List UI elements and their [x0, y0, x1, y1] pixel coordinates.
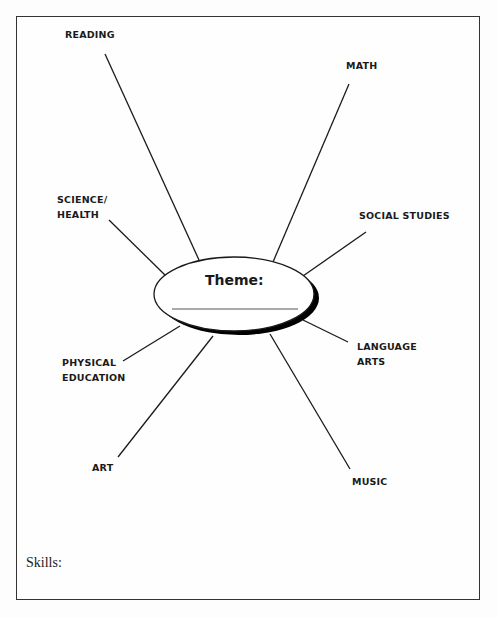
theme-ellipse — [154, 257, 314, 331]
spoke-science-health — [109, 220, 166, 276]
label-art: ART — [92, 460, 113, 475]
label-math: MATH — [346, 58, 377, 73]
label-reading: READING — [65, 27, 115, 42]
theme-label: Theme: — [205, 272, 264, 288]
spoke-social-studies — [303, 232, 366, 276]
spoke-language-arts — [303, 320, 348, 342]
label-physical-education: PHYSICALEDUCATION — [62, 355, 126, 385]
spoke-music — [270, 334, 350, 469]
label-science-health: SCIENCE/HEALTH — [57, 192, 107, 222]
spoke-art — [118, 336, 213, 457]
label-social-studies: SOCIAL STUDIES — [359, 208, 450, 223]
spoke-physical-education — [123, 326, 180, 361]
label-music: MUSIC — [352, 474, 388, 489]
web-diagram — [0, 0, 497, 618]
skills-label: Skills: — [26, 555, 62, 571]
spoke-math — [273, 84, 349, 262]
label-language-arts: LANGUAGEARTS — [357, 339, 417, 369]
